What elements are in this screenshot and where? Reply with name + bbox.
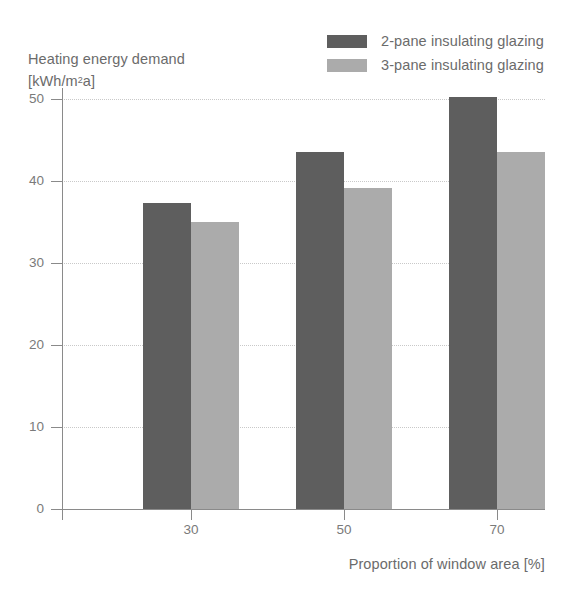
plot-wrapper: 01020304050 305070 Proportion of window … [0,0,562,592]
y-tick-0 [51,509,63,510]
x-tick-label-30: 30 [161,522,221,537]
y-tick-label-30: 30 [10,255,44,270]
y-tick-30 [51,263,63,264]
y-tick-10 [51,427,63,428]
y-tick-label-50: 50 [10,91,44,106]
y-tick-label-10: 10 [10,419,44,434]
bar-50-series-1 [296,152,344,509]
bar-70-series-1 [449,97,497,509]
plot-area [62,99,545,509]
x-tick-label-70: 70 [467,522,527,537]
bar-70-series-2 [497,152,545,509]
gridline-0 [62,509,545,510]
y-tick-40 [51,181,63,182]
x-tick-70 [497,509,498,520]
y-tick-label-0: 0 [10,501,44,516]
y-tick-label-40: 40 [10,173,44,188]
y-tick-50 [51,99,63,100]
bar-30-series-2 [191,222,239,509]
x-tick-50 [344,509,345,520]
x-axis-title: Proportion of window area [%] [0,556,545,572]
x-tick-30 [191,509,192,520]
y-tick-20 [51,345,63,346]
x-tick-label-50: 50 [314,522,374,537]
y-tick-label-20: 20 [10,337,44,352]
bar-30-series-1 [143,203,191,509]
bar-50-series-2 [344,188,392,509]
